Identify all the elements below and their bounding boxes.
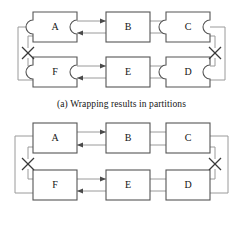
node-e-panel-b: E: [106, 170, 150, 200]
left-break-x-icon: [22, 47, 34, 59]
node-label: C: [185, 132, 192, 143]
inner-right-stub-top-b: [210, 147, 215, 159]
node-d-panel-b: D: [166, 170, 210, 200]
diagram-panel-b: A B C F E: [0, 115, 243, 230]
node-a-panel-a: A: [26, 12, 77, 42]
inner-right-stub-bottom-b: [210, 169, 215, 179]
left-break-x-icon: [22, 158, 34, 170]
outer-right-wrap-a: [210, 27, 225, 80]
caption-panel-a: (a) Wrapping results in partitions: [0, 99, 243, 109]
node-label: A: [51, 132, 59, 143]
node-label: F: [52, 66, 58, 77]
right-break-x-icon: [209, 158, 221, 170]
node-label: F: [52, 179, 58, 190]
node-label: D: [184, 66, 191, 77]
panel-b-graphic: A B C F E: [0, 115, 243, 210]
arrow-into-e-a: [100, 63, 106, 68]
arrow-into-f-b: [77, 188, 83, 193]
diagram-panel-a: A B C F E: [0, 0, 243, 115]
node-label: D: [184, 179, 191, 190]
node-label: A: [51, 21, 59, 32]
figure-root: A B C F E: [0, 0, 243, 230]
outer-right-wrap-b: [210, 136, 228, 193]
node-label: E: [125, 179, 131, 190]
node-d-panel-a: D: [159, 57, 210, 87]
arrow-into-f-a: [77, 75, 83, 80]
node-b-panel-b: B: [106, 123, 150, 153]
node-b-panel-a: B: [106, 12, 150, 42]
node-label: B: [125, 132, 132, 143]
break-marks-b: [22, 158, 221, 170]
node-a-panel-b: A: [33, 123, 77, 153]
arrow-into-e-b: [100, 176, 106, 181]
node-label: B: [125, 21, 132, 32]
node-f-panel-b: F: [33, 170, 77, 200]
inner-left-stub-bottom-b: [28, 169, 33, 179]
outer-left-wrap-b: [15, 136, 33, 193]
node-label: C: [185, 21, 192, 32]
panel-a-graphic: A B C F E: [0, 0, 243, 99]
arrow-into-b-a: [100, 18, 106, 23]
node-label: E: [125, 66, 131, 77]
arrow-into-b-b: [100, 129, 106, 134]
arrowheads-a: [77, 18, 106, 80]
arrowheads-b: [77, 129, 106, 193]
inner-right-stub-top-a: [210, 36, 215, 48]
arrow-into-a-a: [77, 30, 83, 35]
node-e-panel-a: E: [106, 57, 150, 87]
inner-left-stub-top-b: [28, 147, 33, 159]
right-break-x-icon: [209, 47, 221, 59]
node-f-panel-a: F: [26, 57, 77, 87]
inner-left-stub-top-a: [28, 36, 33, 48]
node-c-panel-a: C: [159, 12, 210, 42]
arrow-into-a-b: [77, 142, 83, 147]
inner-right-stub-bottom-a: [210, 58, 215, 66]
node-c-panel-b: C: [166, 123, 210, 153]
